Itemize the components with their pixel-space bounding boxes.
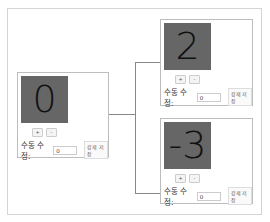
force-save-button[interactable]: 강제 저장 [228,187,252,205]
counter-panel-root: 0 + - 수동 수정: 0 강제 저장 [17,72,109,158]
increment-button[interactable]: + [175,174,186,183]
increment-button[interactable]: + [175,75,186,84]
counter-panel-child-bottom: -3 + - 수동 수정: 0 강제 저장 [160,118,253,204]
force-save-button[interactable]: 강제 저장 [84,141,108,159]
manual-edit-input[interactable]: 0 [197,192,221,201]
connector-root-horizontal [108,114,136,115]
counter-display: 2 [164,23,211,70]
decrement-button[interactable]: - [46,128,57,137]
connector-vertical [135,62,136,193]
decrement-button[interactable]: - [189,174,200,183]
manual-edit-input[interactable]: 0 [197,93,221,102]
counter-display: -3 [164,122,211,169]
counter-panel-child-top: 2 + - 수동 수정: 0 강제 저장 [160,19,253,106]
connector-bottom-horizontal [135,193,161,194]
counter-display: 0 [21,76,68,123]
manual-edit-input[interactable]: 0 [53,146,77,155]
increment-button[interactable]: + [32,128,43,137]
force-save-button[interactable]: 강제 저장 [228,88,252,106]
manual-edit-label: 수동 수정: [164,86,192,108]
connector-top-horizontal [135,62,161,63]
manual-edit-label: 수동 수정: [21,139,48,161]
decrement-button[interactable]: - [189,75,200,84]
manual-edit-label: 수동 수정: [164,185,192,207]
